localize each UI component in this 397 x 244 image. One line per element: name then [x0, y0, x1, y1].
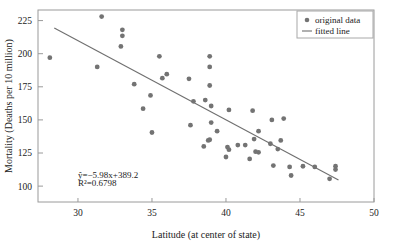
data-point	[256, 129, 261, 134]
legend-label-original-data: original data	[315, 15, 360, 25]
scatter-plot-figure: 3035404550 100125150175200225 ŷ=−5.98x+3…	[0, 0, 397, 244]
data-point	[120, 33, 125, 38]
legend-marker-original-data	[305, 18, 310, 23]
data-point	[312, 165, 317, 170]
data-point	[132, 82, 137, 87]
data-point	[209, 120, 214, 125]
data-point	[120, 27, 125, 32]
data-point	[207, 65, 212, 70]
y-tick-label: 125	[18, 148, 33, 158]
data-point	[289, 173, 294, 178]
x-tick-label: 35	[147, 208, 157, 218]
x-tick-label: 45	[295, 208, 305, 218]
data-point	[327, 176, 332, 181]
data-point	[150, 130, 155, 135]
y-axis-title: Mortality (Deaths per 10 million)	[3, 39, 15, 173]
y-tick-label: 100	[18, 182, 33, 192]
data-point	[141, 106, 146, 111]
data-point	[188, 123, 193, 128]
y-tick-label: 175	[18, 82, 33, 92]
data-point	[271, 163, 276, 168]
data-point	[268, 141, 273, 146]
legend-label-fitted-line: fitted line	[315, 26, 350, 36]
data-point	[160, 76, 165, 81]
data-point	[118, 44, 123, 49]
data-point	[164, 72, 169, 77]
data-point	[209, 104, 214, 109]
r-squared-text: R²=0.6798	[78, 178, 117, 188]
data-point	[250, 108, 255, 113]
mortality-vs-latitude-chart: 3035404550 100125150175200225 ŷ=−5.98x+3…	[0, 0, 397, 244]
x-tick-label: 30	[73, 208, 83, 218]
data-point	[227, 147, 232, 152]
data-point	[187, 76, 192, 81]
data-point	[281, 116, 286, 121]
chart-legend[interactable]: original data fitted line	[297, 11, 373, 38]
x-axis-title: Latitude (at center of state)	[152, 229, 260, 241]
data-point	[301, 164, 306, 169]
y-tick-label: 150	[18, 115, 33, 125]
data-point	[247, 157, 252, 162]
x-tick-label: 50	[369, 208, 379, 218]
data-point	[201, 144, 206, 149]
data-point	[252, 137, 257, 142]
data-point	[207, 54, 212, 59]
data-point	[203, 98, 208, 103]
data-point	[227, 108, 232, 113]
y-tick-label: 200	[18, 49, 33, 59]
data-point	[243, 143, 248, 148]
data-point	[47, 55, 52, 60]
data-point	[157, 54, 162, 59]
data-point	[269, 118, 274, 123]
data-point	[287, 165, 292, 170]
data-point	[191, 99, 196, 104]
data-point	[207, 137, 212, 142]
data-point	[333, 167, 338, 172]
x-tick-label: 40	[221, 208, 231, 218]
data-point	[148, 93, 153, 98]
data-point	[95, 65, 100, 70]
data-point	[215, 129, 220, 134]
data-point	[278, 138, 283, 143]
data-point	[224, 155, 229, 160]
data-point	[275, 147, 280, 152]
y-tick-label: 225	[18, 16, 33, 26]
data-point	[235, 143, 240, 148]
data-point	[256, 150, 261, 155]
data-point	[207, 83, 212, 88]
data-point	[99, 14, 104, 19]
